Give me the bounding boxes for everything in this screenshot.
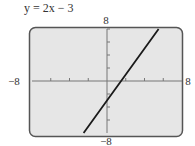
graph-plot: 8 −8 −8 8 (0, 0, 195, 146)
y-max-label: 8 (103, 14, 109, 26)
screen-frame (30, 28, 183, 137)
x-min-label: −8 (8, 75, 20, 87)
x-max-label: 8 (185, 75, 191, 87)
y-min-label: −8 (100, 135, 112, 146)
